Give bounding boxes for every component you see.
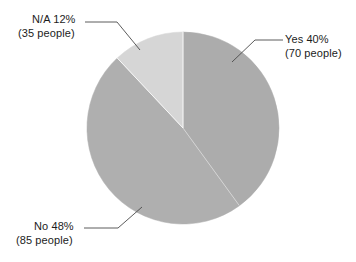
- pie-label-yes-count: (70 people): [285, 46, 342, 60]
- pie-label-no-count: (85 people): [16, 233, 74, 247]
- pie-chart-figure: N/A 12% (35 people) Yes 40% (70 people) …: [0, 0, 356, 262]
- pie-label-na: N/A 12% (35 people): [18, 12, 76, 40]
- pie-label-no-percent: No 48%: [16, 219, 74, 233]
- leader-line-na: [85, 22, 140, 50]
- pie-label-no: No 48% (85 people): [16, 219, 74, 247]
- pie-label-na-percent: N/A 12%: [18, 12, 76, 26]
- pie-label-na-count: (35 people): [18, 26, 76, 40]
- pie-label-yes: Yes 40% (70 people): [285, 32, 342, 60]
- pie-label-yes-percent: Yes 40%: [285, 32, 342, 46]
